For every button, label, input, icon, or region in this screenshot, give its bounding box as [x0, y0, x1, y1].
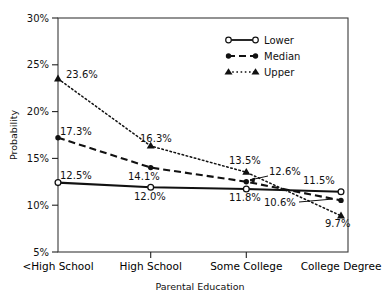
legend-marker-circle-lower-start [226, 37, 232, 43]
point-label-upper-3: 9.7% [325, 218, 350, 229]
legend-item-upper[interactable]: Upper [225, 67, 296, 78]
point-label-median-3: 10.6% [264, 197, 296, 208]
marker-dot-median-3 [338, 198, 343, 203]
y-axis-ticks [52, 18, 58, 252]
chart-legend: Lower Median Upper [225, 35, 301, 78]
point-label-median-2: 12.6% [269, 166, 301, 177]
point-label-upper-0: 23.6% [66, 69, 98, 80]
y-tick-label-30: 30% [27, 13, 49, 24]
marker-circle-lower-1 [148, 184, 154, 190]
y-axis-title: Probability [8, 110, 19, 161]
series-line-upper [58, 79, 341, 216]
legend-marker-dot-median-end [253, 53, 258, 58]
marker-triangle-upper-0 [54, 75, 62, 82]
legend-marker-triangle-upper-start [225, 68, 233, 74]
point-label-lower-3: 11.5% [303, 175, 335, 186]
x-axis-title: Parental Education [155, 281, 244, 292]
x-cat-label-lt-high-school: <High School [22, 260, 93, 272]
plot-frame [58, 18, 348, 252]
y-tick-label-25: 25% [27, 59, 49, 70]
legend-label-upper: Upper [264, 67, 295, 78]
legend-marker-dot-median-start [226, 53, 231, 58]
legend-label-lower: Lower [264, 35, 295, 46]
marker-circle-lower-3 [338, 189, 344, 195]
line-chart: 30% 25% 20% 15% 10% 5% Probability <High… [0, 0, 385, 303]
chart-container: 30% 25% 20% 15% 10% 5% Probability <High… [0, 0, 385, 303]
point-label-upper-1: 16.3% [140, 133, 172, 144]
legend-item-median[interactable]: Median [226, 51, 301, 62]
x-cat-label-some-college: Some College [210, 260, 282, 272]
y-tick-label-10: 10% [27, 200, 49, 211]
series-line-lower [58, 183, 341, 192]
y-tick-label-20: 20% [27, 106, 49, 117]
marker-dot-median-1 [148, 165, 153, 170]
x-cat-label-college-degree: College Degree [301, 260, 382, 272]
point-label-median-1: 14.1% [128, 171, 160, 182]
legend-item-lower[interactable]: Lower [226, 35, 295, 46]
x-cat-label-high-school: High School [120, 260, 182, 272]
point-label-median-0: 17.3% [60, 126, 92, 137]
y-tick-label-5: 5% [33, 247, 49, 258]
marker-dot-median-2 [244, 179, 249, 184]
point-label-lower-0: 12.5% [60, 170, 92, 181]
legend-marker-circle-lower-end [253, 37, 259, 43]
x-axis-ticks [151, 252, 247, 258]
point-label-lower-1: 12.0% [134, 191, 166, 202]
point-label-upper-2: 13.5% [229, 155, 261, 166]
y-tick-label-15: 15% [27, 153, 49, 164]
legend-marker-triangle-upper-end [252, 68, 260, 74]
legend-label-median: Median [264, 51, 300, 62]
point-label-lower-2: 11.8% [229, 192, 261, 203]
